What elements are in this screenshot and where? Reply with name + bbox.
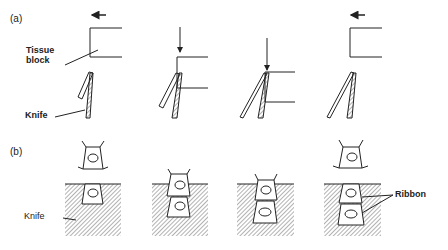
microtome-sectioning-diagram — [0, 0, 448, 250]
ribbon-label: Ribbon — [395, 189, 426, 199]
tissue-block — [350, 28, 382, 57]
knife-blade — [347, 73, 356, 118]
knife-label-a: Knife — [25, 110, 48, 120]
panel-a-step-3 — [240, 38, 295, 118]
panel-b-step-4 — [324, 140, 393, 236]
tissue-block — [265, 72, 295, 102]
panel-a-step-1 — [55, 15, 122, 118]
tissue-block-label-line1: Tissue — [26, 45, 54, 55]
tissue-block — [90, 28, 122, 57]
panel-a-step-4 — [327, 15, 382, 118]
knife-blade — [86, 73, 93, 118]
tissue-block-label-line2: block — [26, 55, 54, 65]
panel-b-step-1 — [63, 141, 121, 236]
panel-b-label: (b) — [10, 146, 22, 158]
panel-b-step-2 — [152, 169, 208, 236]
panel-a-step-2 — [159, 27, 208, 118]
panel-a-label: (a) — [10, 13, 22, 25]
panel-b-step-3 — [237, 174, 294, 236]
knife-label-b: Knife — [24, 211, 45, 221]
tissue-block-label: Tissue block — [26, 45, 54, 66]
